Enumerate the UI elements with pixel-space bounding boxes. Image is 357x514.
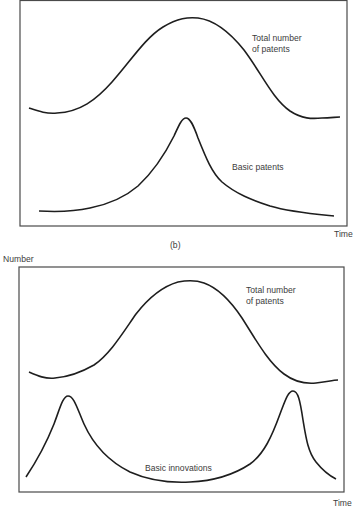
panel-a-basic-label: Basic patents — [232, 162, 284, 172]
panel-b-x-axis-label: Time — [333, 498, 352, 508]
panel-b-basic-label: Basic innovations — [145, 463, 212, 473]
chart-canvas — [0, 0, 357, 514]
panel-a-total-label-line1: Total number — [252, 33, 302, 43]
panel-b-y-axis-label: Number — [3, 254, 34, 264]
figure: Total number of patents Basic patents Ti… — [0, 0, 357, 514]
panel-b-total-label-line2: of patents — [246, 296, 284, 306]
panel-b-total-label-line1: Total number — [246, 285, 296, 295]
panel-b-title: (b) — [170, 240, 181, 250]
panel-b-total-patents-curve — [29, 281, 338, 384]
panel-a-total-label-line2: of patents — [252, 44, 290, 54]
panel-a-basic-patents-curve — [39, 118, 334, 216]
panel-a-x-axis-label: Time — [334, 229, 353, 239]
